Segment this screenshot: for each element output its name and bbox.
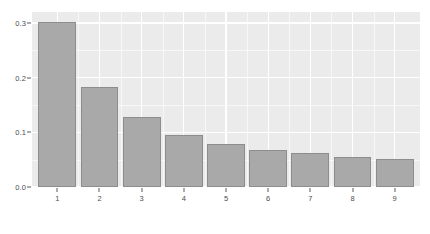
- y-tick-mark: [27, 22, 31, 23]
- y-tick-mark: [27, 187, 31, 188]
- y-tick-label: 0.2: [15, 73, 26, 82]
- x-tick-label: 7: [308, 194, 312, 203]
- x-tick-label: 5: [224, 194, 228, 203]
- y-tick-label: 0.3: [15, 18, 26, 27]
- x-tick-mark: [394, 188, 395, 192]
- y-tick-label: 0.0: [15, 183, 26, 192]
- y-tick-label: 0.1: [15, 128, 26, 137]
- bar-9: [376, 159, 414, 187]
- x-tick-mark: [57, 188, 58, 192]
- x-tick-label: 9: [393, 194, 397, 203]
- plot-panel: [32, 12, 420, 187]
- bar-6: [249, 150, 287, 187]
- bar-2: [81, 87, 119, 187]
- y-tick-mark: [27, 77, 31, 78]
- bar-7: [291, 153, 329, 187]
- bar-5: [207, 144, 245, 187]
- x-tick-mark: [183, 188, 184, 192]
- x-tick-mark: [99, 188, 100, 192]
- x-tick-mark: [310, 188, 311, 192]
- chart-figure: 0.00.10.20.3123456789: [0, 0, 430, 234]
- x-tick-label: 8: [350, 194, 354, 203]
- bar-8: [334, 157, 372, 187]
- x-tick-label: 3: [140, 194, 144, 203]
- x-tick-mark: [226, 188, 227, 192]
- bar-series: [32, 12, 420, 187]
- x-tick-label: 4: [182, 194, 186, 203]
- bar-3: [123, 117, 161, 187]
- x-tick-label: 2: [97, 194, 101, 203]
- x-tick-mark: [268, 188, 269, 192]
- x-tick-label: 1: [55, 194, 59, 203]
- bar-4: [165, 135, 203, 187]
- x-tick-mark: [352, 188, 353, 192]
- y-tick-mark: [27, 132, 31, 133]
- x-tick-mark: [141, 188, 142, 192]
- x-tick-label: 6: [266, 194, 270, 203]
- bar-1: [38, 22, 76, 187]
